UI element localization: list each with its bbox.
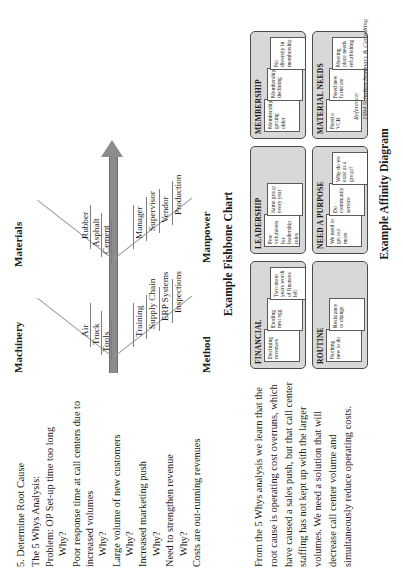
affinity-note: No diversity in membership [270, 37, 306, 70]
fishbone-cause-manpower-1: Manager [134, 206, 144, 239]
why-answer-2: Large volume of new customers [110, 377, 123, 567]
affinity-card-financial: FINANCIAL Declining revenues Eroding nes… [250, 261, 306, 369]
fishbone-cause-materials-2: Asphalt [91, 218, 101, 247]
why-question-2: Why? [96, 377, 109, 567]
fishbone-diagram: Machinery Air Truck Tools Materials Rubb… [6, 129, 221, 379]
fishbone-cause-method-2: Supply Chain [147, 279, 157, 329]
reference-note: Reference: 1994 Schulten Seminars & Cons… [352, 5, 370, 120]
affinity-card-title: MEMBERSHIP [254, 36, 263, 134]
why-answer-5: Costs are out-running revenues [190, 377, 203, 567]
affinity-card-title: FINANCIAL [254, 266, 263, 364]
affinity-note: Two more years worth of finances left [270, 267, 306, 300]
why-question-4: Why? [150, 377, 163, 567]
fishbone-category-machinery: Machinery [12, 322, 24, 373]
five-whys-problem: Problem: OP Set-up time too long [43, 377, 56, 567]
fishbone-cause-materials-3: Cement [101, 225, 111, 254]
affinity-note: Declining revenues [264, 329, 300, 362]
why-question-3: Why? [123, 377, 136, 567]
fishbone-cause-machinery-1: Air [80, 325, 90, 337]
affinity-note: Why do we exist as a group? [332, 152, 368, 185]
rotated-page-wrapper: 5. Determine Root Cause The 5 Whys Analy… [0, 0, 403, 575]
affinity-card-title: NEED A PURPOSE [316, 151, 325, 249]
affinity-card-leadership: LEADERSHIP Few volunteers for leadership… [250, 146, 306, 254]
affinity-card-membership: MEMBERSHIP Membership getting older Memb… [250, 31, 306, 139]
why-answer-4: Need to strengthen revenue [163, 377, 176, 567]
affinity-note: Do community service [329, 183, 365, 216]
why-question-1: Why? [56, 377, 69, 567]
affinity-note: Few volunteers for leadership roles [264, 214, 300, 247]
five-whys-section: 5. Determine Root Cause The 5 Whys Analy… [14, 377, 203, 567]
fishbone-cause-method-1: Training [134, 306, 144, 337]
fishbone-category-materials: Materials [12, 222, 24, 267]
fishbone-cause-materials-1: Rubber [80, 212, 90, 239]
fishbone-cause-manpower-3: Vendor [160, 196, 170, 223]
affinity-note: Membership declining [267, 68, 303, 101]
fishbone-cause-machinery-3: Tools [101, 332, 111, 352]
affinity-note: Same group every year [267, 183, 303, 216]
fishbone-bone-machinery-3 [111, 318, 112, 362]
affinity-card-title: MATERIAL NEEDS [316, 36, 325, 134]
affinity-caption: Example Affinity Diagram [378, 19, 391, 369]
affinity-note: Nothing new to do [326, 329, 362, 362]
fishbone-cause-method-3: ERP Systems [160, 272, 170, 321]
page-title: 5. Determine Root Cause [14, 377, 27, 567]
affinity-card-title: ROUTINE [316, 266, 325, 364]
analysis-paragraph: From the 5 Whys analysis we learn that t… [252, 373, 355, 567]
reference-text: 1994 Schulten Seminars & Consulting [361, 19, 368, 120]
why-answer-3: Increased marketing push [136, 377, 149, 567]
reference-label: Reference: [352, 5, 361, 120]
affinity-card-routine: ROUTINE Nothing new to do Resistance to … [312, 261, 368, 369]
why-question-5: Why? [177, 377, 190, 567]
affinity-note: Membership getting older [264, 99, 300, 132]
affinity-note: Resistance to change [329, 298, 365, 331]
affinity-note: We need to get out more [326, 214, 362, 247]
document-page: 5. Determine Root Cause The 5 Whys Analy… [0, 0, 403, 575]
affinity-card-title: LEADERSHIP [254, 151, 263, 249]
fishbone-cause-method-4: Inspections [173, 271, 183, 313]
fishbone-cause-manpower-2: Supervisor [147, 191, 157, 231]
fishbone-category-manpower: Manpower [200, 212, 212, 263]
fishbone-cause-manpower-4: Production [173, 175, 183, 215]
fishbone-caption: Example Fishbone Chart [222, 129, 235, 379]
fishbone-cause-machinery-2: Truck [91, 323, 101, 345]
fishbone-category-method: Method [200, 336, 212, 373]
fishbone-arrowhead-icon [101, 140, 123, 157]
fishbone-bone-materials-3 [111, 220, 112, 264]
affinity-note: Eroding nest egg [267, 298, 303, 331]
affinity-card-need-a-purpose: NEED A PURPOSE We need to get out more D… [312, 146, 368, 254]
five-whys-heading: The 5 Whys Analysis: [29, 377, 42, 567]
why-answer-1: Poor response time at call centers due t… [70, 377, 97, 567]
